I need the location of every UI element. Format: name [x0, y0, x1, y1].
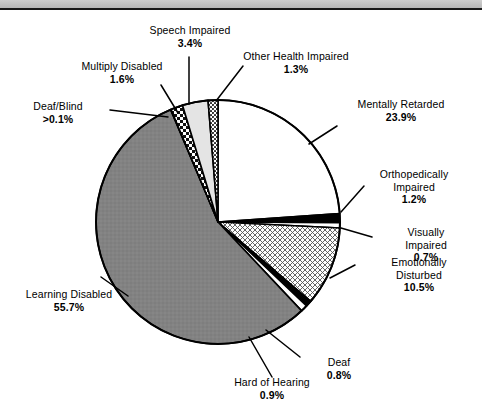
label-hard-of-hearing: Hard of Hearing 0.9% [200, 376, 344, 401]
label-learning-disabled: Learning Disabled 55.7% [6, 288, 132, 313]
label-deaf-blind: Deaf/Blind >0.1% [12, 100, 104, 125]
label-other-health-impaired-pct: 1.3% [222, 63, 370, 76]
label-other-health-impaired-name: Other Health Impaired [243, 50, 348, 62]
leader-deaf [266, 330, 300, 357]
label-learning-disabled-pct: 55.7% [6, 301, 132, 314]
label-deaf-name: Deaf [328, 356, 351, 368]
label-emotionally-disturbed-name: Emotionally [391, 256, 446, 268]
label-mentally-retarded-pct: 23.9% [330, 111, 472, 124]
label-emotionally-disturbed-pct: 10.5% [360, 281, 478, 294]
leader-mentally-retarded [309, 126, 337, 144]
label-orthopedically-impaired-pct: 1.2% [358, 193, 470, 206]
label-deaf-blind-name: Deaf/Blind [33, 100, 82, 112]
label-other-health-impaired: Other Health Impaired 1.3% [222, 50, 370, 75]
label-emotionally-disturbed: Emotionally Disturbed 10.5% [360, 256, 478, 294]
leader-deaf-blind [110, 110, 168, 117]
label-orthopedically-impaired-name2: Impaired [358, 181, 470, 194]
label-speech-impaired: Speech Impaired 3.4% [116, 24, 264, 49]
label-orthopedically-impaired-name: Orthopedically [380, 168, 449, 180]
pie-slice-mentally-retarded [218, 100, 340, 222]
leader-multiply-disabled [161, 85, 178, 113]
label-speech-impaired-pct: 3.4% [116, 37, 264, 50]
label-speech-impaired-name: Speech Impaired [150, 24, 231, 36]
label-orthopedically-impaired: Orthopedically Impaired 1.2% [358, 168, 470, 206]
leader-visually-impaired [341, 228, 372, 237]
leader-emotionally-disturbed [330, 265, 355, 278]
label-hard-of-hearing-pct: 0.9% [200, 389, 344, 402]
label-multiply-disabled-pct: 1.6% [58, 73, 186, 86]
label-learning-disabled-name: Learning Disabled [26, 288, 112, 300]
label-emotionally-disturbed-name2: Disturbed [360, 269, 478, 282]
label-multiply-disabled: Multiply Disabled 1.6% [58, 60, 186, 85]
label-mentally-retarded-name: Mentally Retarded [358, 98, 445, 110]
label-visually-impaired-name: Visually [408, 226, 445, 238]
label-multiply-disabled-name: Multiply Disabled [81, 60, 162, 72]
pie-slices [96, 100, 340, 344]
leader-hard-of-hearing [249, 337, 272, 377]
label-hard-of-hearing-name: Hard of Hearing [234, 376, 310, 388]
label-deaf-blind-pct: >0.1% [12, 113, 104, 126]
label-mentally-retarded: Mentally Retarded 23.9% [330, 98, 472, 123]
pie-chart-page: Speech Impaired 3.4% Other Health Impair… [0, 0, 482, 406]
label-visually-impaired-name2: Impaired [378, 239, 474, 252]
